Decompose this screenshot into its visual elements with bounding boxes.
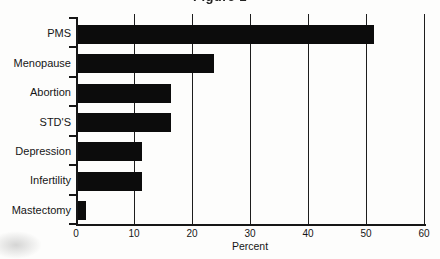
- x-tick-label: 60: [418, 228, 429, 239]
- x-tick-label: 40: [302, 228, 313, 239]
- x-tick-label: 50: [360, 228, 371, 239]
- scanned-bar-chart-page: Figure 1 PMSMenopauseAbortionSTD'SDepres…: [0, 0, 440, 259]
- x-tick-label: 30: [244, 228, 255, 239]
- x-axis-label: Percent: [76, 240, 424, 252]
- x-tick-labels: 0102030405060: [0, 0, 440, 259]
- x-tick-label: 20: [186, 228, 197, 239]
- x-tick-label: 0: [73, 228, 79, 239]
- scan-artifact-smudge: [0, 231, 42, 259]
- x-tick-label: 10: [128, 228, 139, 239]
